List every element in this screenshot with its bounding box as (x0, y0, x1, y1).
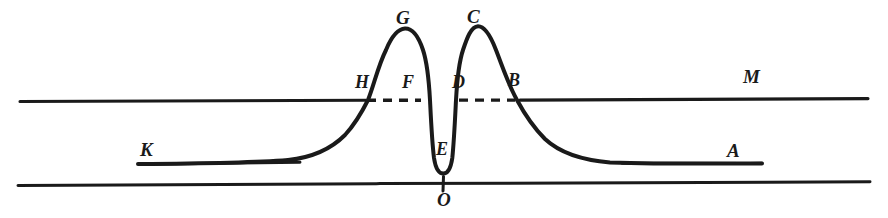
label-F: F (402, 73, 415, 91)
label-K: K (140, 140, 153, 159)
label-O: O (437, 190, 451, 209)
label-M: M (743, 67, 760, 86)
figure-container: G C H F D B M E K A O (0, 0, 888, 218)
curve-diagram-svg (0, 0, 888, 218)
label-B: B (508, 71, 521, 89)
label-E: E (436, 140, 449, 158)
label-H: H (355, 73, 370, 91)
label-A: A (727, 141, 740, 160)
label-G: G (396, 8, 410, 27)
label-D: D (452, 73, 466, 91)
upper-reference-line-right (520, 99, 868, 101)
upper-reference-line-left (20, 100, 366, 101)
label-C: C (467, 7, 480, 26)
